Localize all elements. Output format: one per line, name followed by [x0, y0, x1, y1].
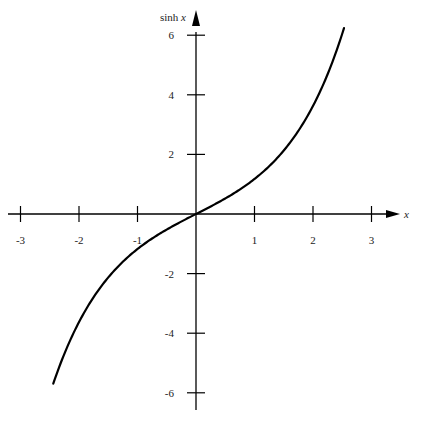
sinh-plot: -3-2-1123 642-2-4-6 x sinh x — [0, 0, 424, 422]
y-axis-arrow-icon — [192, 10, 200, 26]
x-tick-label: -3 — [16, 234, 26, 246]
y-tick-label: -2 — [165, 268, 174, 280]
sinh-curve — [53, 28, 344, 384]
x-tick-label: 3 — [369, 234, 375, 246]
y-tick-label: -6 — [165, 387, 175, 399]
y-tick-label: 2 — [169, 148, 175, 160]
y-tick-label: 6 — [169, 29, 175, 41]
y-tick-label: -4 — [165, 327, 175, 339]
x-ticks: -3-2-1123 — [16, 206, 375, 246]
y-axis-label-func: sinh — [160, 11, 181, 23]
x-axis-label: x — [403, 208, 409, 220]
y-tick-label: 4 — [169, 89, 175, 101]
y-axis-label-var: x — [180, 11, 186, 23]
x-tick-label: -1 — [133, 234, 142, 246]
x-tick-label: 1 — [252, 234, 258, 246]
x-tick-label: -2 — [74, 234, 83, 246]
y-axis-label: sinh x — [160, 11, 186, 23]
x-tick-label: 2 — [310, 234, 316, 246]
x-axis — [8, 210, 400, 218]
y-axis — [192, 10, 200, 410]
x-axis-arrow-icon — [386, 210, 400, 218]
